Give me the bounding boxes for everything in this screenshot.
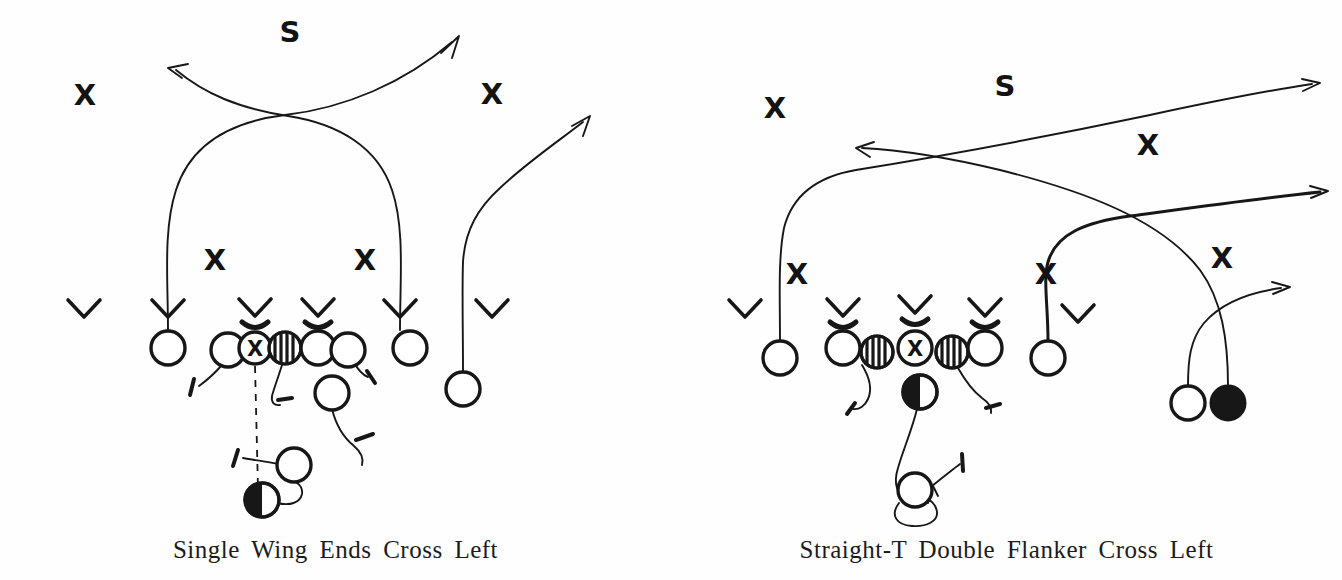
- player-r-right-end: [1031, 341, 1065, 375]
- player-right-end-out: [393, 331, 427, 365]
- offense-right: X: [763, 331, 1245, 507]
- center-x-icon: X: [247, 337, 263, 361]
- defender-bowl-icon: [902, 319, 928, 325]
- player-blocking-back: [315, 376, 349, 410]
- defender-chevron: [1062, 305, 1094, 322]
- safety-s-icon: S: [995, 69, 1016, 103]
- defender-chevron: [476, 300, 508, 317]
- route-left-end-arrowhead: [441, 36, 459, 58]
- player-r-flanker-outside: [1211, 386, 1245, 420]
- defender-x-icon: X: [354, 243, 376, 277]
- route-left-end-cross-right: [167, 42, 452, 330]
- player-r-left-end: [763, 341, 797, 375]
- defender-x-icon: X: [1211, 241, 1233, 275]
- routes-right: [780, 79, 1328, 526]
- defender-chevron: [239, 299, 271, 316]
- routes-left: [167, 36, 590, 504]
- defender-bowl-icon: [972, 322, 998, 328]
- center-x-icon: X: [907, 337, 923, 361]
- safety-s-icon: S: [280, 15, 301, 49]
- defense-line-right: [729, 296, 1094, 328]
- blockbar-tailback: [233, 450, 238, 466]
- route-fullback-curl: [277, 481, 302, 504]
- player-r-fullback: [898, 473, 932, 507]
- defender-x-icon: X: [204, 243, 226, 277]
- defender-x-icon: X: [1137, 128, 1159, 162]
- defense-line-left: [68, 299, 508, 328]
- defender-x-icon: X: [74, 78, 96, 112]
- defender-x-icon: X: [1035, 257, 1057, 291]
- route-r-fullback-block: [932, 464, 960, 486]
- blockbar-right-guard: [278, 398, 292, 400]
- route-r-flanker-inside-out: [1188, 288, 1281, 386]
- route-wingback-arrowhead: [572, 116, 590, 136]
- defender-x-icon: X: [786, 257, 808, 291]
- route-wingback-up: [463, 122, 583, 371]
- player-r-left-tackle: [826, 331, 860, 365]
- blockbar-r-fullback: [962, 454, 963, 471]
- player-wingback: [446, 372, 480, 406]
- defender-chevron: [729, 300, 761, 317]
- player-right-end-in: [331, 333, 365, 367]
- defender-chevron: [68, 300, 100, 317]
- caption-left-play: Single Wing Ends Cross Left: [0, 536, 671, 564]
- defense-markers-right: X S X X X X: [764, 69, 1233, 291]
- caption-right-play: Straight-T Double Flanker Cross Left: [671, 536, 1342, 564]
- defender-chevron: [302, 299, 334, 316]
- player-tailback: [277, 448, 311, 482]
- defender-chevron: [969, 299, 1001, 316]
- route-blocking-back-hook: [332, 409, 363, 465]
- route-r-right-end-cross-left: [1046, 192, 1320, 341]
- defender-bowl-icon: [305, 322, 331, 328]
- defender-chevron: [827, 299, 859, 316]
- blockbar-left-tackle: [190, 379, 194, 395]
- player-r-right-tackle: [968, 331, 1002, 365]
- route-snap-line: [255, 366, 258, 489]
- defender-bowl-icon: [830, 322, 856, 328]
- route-right-end-cross-left: [176, 70, 401, 330]
- route-left-tackle-block: [199, 365, 222, 386]
- defender-x-icon: X: [764, 91, 786, 125]
- defense-markers-left: X S X X X: [74, 15, 503, 277]
- offense-left: X: [151, 330, 480, 517]
- player-r-flanker-inside: [1171, 386, 1205, 420]
- defender-bowl-icon: [242, 322, 268, 328]
- defender-chevron: [899, 296, 931, 313]
- route-tailback-block: [243, 458, 280, 464]
- diagram-left: X X S X: [0, 0, 1342, 580]
- defender-x-icon: X: [481, 77, 503, 111]
- play-diagram-page: X X S X: [0, 0, 1342, 580]
- player-left-end: [151, 331, 185, 365]
- blockbar-blocking-back: [356, 434, 373, 440]
